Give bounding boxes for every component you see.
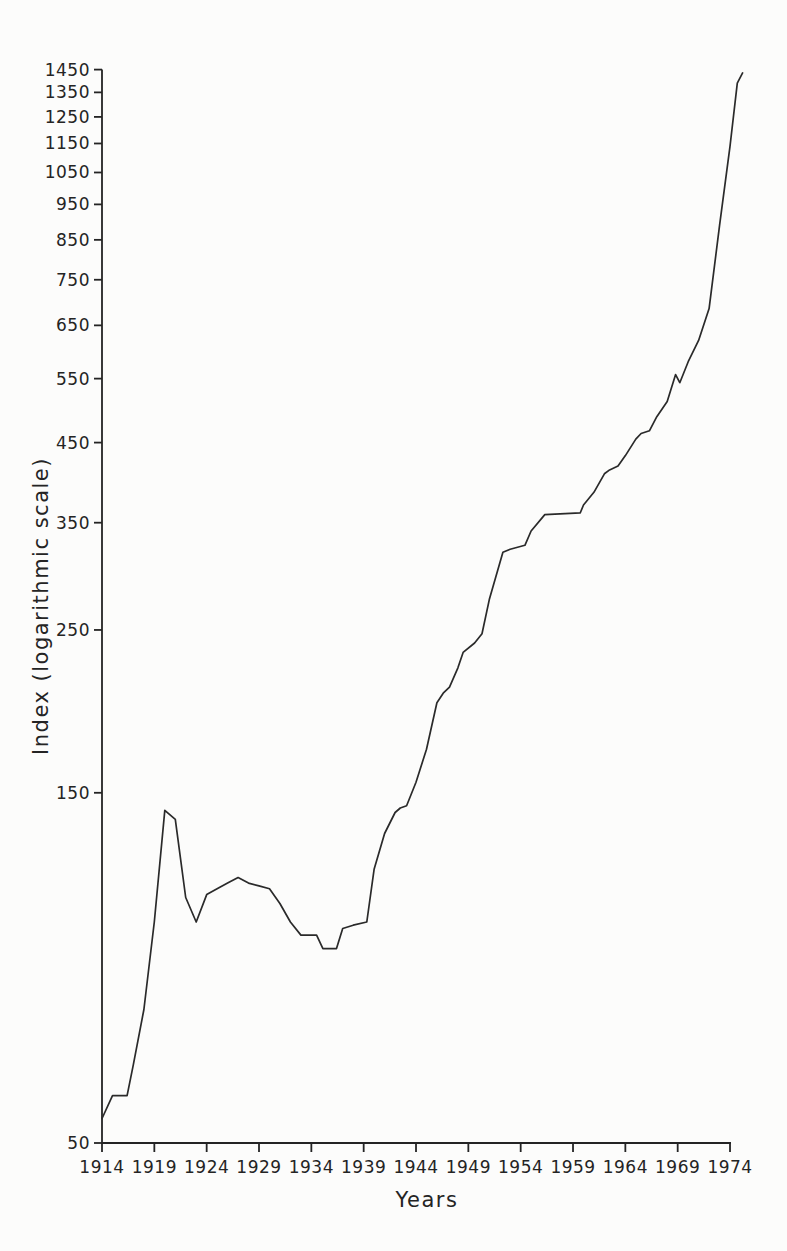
y-tick-label: 850 — [56, 230, 90, 250]
y-tick-label: 350 — [56, 513, 90, 533]
x-tick-label: 1949 — [446, 1157, 491, 1177]
y-tick-label: 1050 — [45, 162, 90, 182]
x-tick-label: 1924 — [184, 1157, 229, 1177]
x-tick-label: 1929 — [236, 1157, 281, 1177]
y-tick-label: 650 — [56, 315, 90, 335]
x-tick-label: 1959 — [550, 1157, 595, 1177]
y-axis-title: Index (logarithmic scale) — [29, 457, 53, 755]
y-tick-label: 550 — [56, 369, 90, 389]
axis-spines — [102, 70, 731, 1143]
x-axis-title: Years — [395, 1188, 459, 1212]
series-layer — [102, 73, 743, 1119]
x-tick-label: 1964 — [603, 1157, 648, 1177]
x-tick-label: 1939 — [341, 1157, 386, 1177]
chart-svg: 5015025035045055065075085095010501150125… — [0, 0, 787, 1251]
x-tick-label: 1944 — [393, 1157, 438, 1177]
x-tick-label: 1954 — [498, 1157, 543, 1177]
index-line-series — [102, 73, 743, 1119]
x-tick-label: 1969 — [655, 1157, 700, 1177]
axes-layer: 5015025035045055065075085095010501150125… — [45, 60, 753, 1177]
y-tick-label: 50 — [67, 1133, 90, 1153]
y-tick-label: 1150 — [45, 133, 90, 153]
y-tick-label: 1350 — [45, 82, 90, 102]
y-tick-label: 1450 — [45, 60, 90, 80]
y-tick-label: 450 — [56, 433, 90, 453]
y-tick-label: 150 — [56, 783, 90, 803]
x-tick-label: 1919 — [132, 1157, 177, 1177]
y-tick-label: 950 — [56, 194, 90, 214]
chart-figure: 5015025035045055065075085095010501150125… — [0, 0, 787, 1251]
x-tick-label: 1914 — [79, 1157, 124, 1177]
x-tick-label: 1934 — [289, 1157, 334, 1177]
y-tick-label: 1250 — [45, 107, 90, 127]
y-tick-label: 750 — [56, 270, 90, 290]
y-tick-label: 250 — [56, 620, 90, 640]
x-tick-label: 1974 — [707, 1157, 752, 1177]
